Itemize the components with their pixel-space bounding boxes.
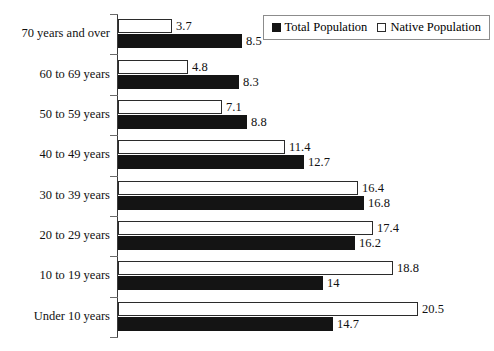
category-label: Under 10 years [0, 309, 110, 324]
category-label: 20 to 29 years [0, 228, 110, 243]
y-axis-tick [110, 54, 118, 55]
category-label: 30 to 39 years [0, 188, 110, 203]
bar-native-population [118, 261, 393, 275]
bar-value-native-population: 11.4 [289, 140, 310, 154]
bar-value-native-population: 3.7 [176, 19, 192, 33]
y-axis-tick [110, 297, 118, 298]
bar-total-population [118, 196, 364, 210]
bar-native-population [118, 221, 373, 235]
bar-value-native-population: 20.5 [422, 302, 444, 316]
bar-value-native-population: 18.8 [397, 261, 419, 275]
bar-total-population [118, 276, 323, 290]
bar-value-total-population: 12.7 [308, 155, 330, 169]
y-axis-tick [110, 95, 118, 96]
bar-native-population [118, 60, 188, 74]
y-axis-tick [110, 135, 118, 136]
bar-native-population [118, 100, 222, 114]
bar-value-native-population: 16.4 [362, 181, 384, 195]
category-label: 10 to 19 years [0, 268, 110, 283]
bar-value-total-population: 16.2 [359, 236, 381, 250]
bar-value-native-population: 7.1 [226, 100, 242, 114]
bar-total-population [118, 115, 247, 129]
category-label: 50 to 59 years [0, 107, 110, 122]
bar-total-population [118, 155, 304, 169]
bar-total-population [118, 75, 239, 89]
bar-value-native-population: 17.4 [377, 221, 399, 235]
bar-value-native-population: 4.8 [192, 60, 208, 74]
chart-legend: Total Population Native Population [263, 15, 490, 40]
bar-native-population [118, 140, 285, 154]
bar-value-total-population: 8.5 [246, 34, 262, 48]
bar-native-population [118, 181, 358, 195]
bar-total-population [118, 317, 333, 331]
hollow-square-icon [377, 23, 386, 32]
category-label: 60 to 69 years [0, 67, 110, 82]
filled-square-icon [272, 23, 281, 32]
y-axis-tick [110, 216, 118, 217]
chart-title-clipped [0, 0, 494, 3]
bar-total-population [118, 34, 242, 48]
y-axis-tick [110, 176, 118, 177]
category-label: 70 years and over [0, 26, 110, 41]
legend-item-native-population: Native Population [377, 20, 481, 35]
y-axis-tick [110, 256, 118, 257]
bar-value-total-population: 8.3 [243, 75, 259, 89]
y-axis-tick [110, 14, 118, 15]
bar-native-population [118, 19, 172, 33]
horizontal-bar-chart: Total Population Native Population 70 ye… [0, 0, 494, 351]
bar-value-total-population: 16.8 [368, 196, 390, 210]
legend-label-total-population: Total Population [285, 20, 368, 35]
bar-value-total-population: 14 [327, 276, 340, 290]
legend-label-native-population: Native Population [390, 20, 481, 35]
category-label: 40 to 49 years [0, 147, 110, 162]
bar-total-population [118, 236, 355, 250]
bar-native-population [118, 302, 418, 316]
y-axis-tick [110, 337, 118, 338]
bar-value-total-population: 14.7 [337, 317, 359, 331]
bar-value-total-population: 8.8 [251, 115, 267, 129]
legend-item-total-population: Total Population [272, 20, 368, 35]
